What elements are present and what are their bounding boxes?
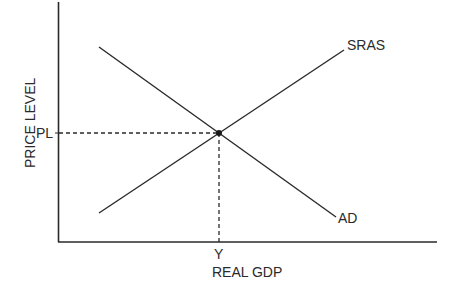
x-axis-label: REAL GDP: [212, 264, 282, 280]
y-axis-label: PRICE LEVEL: [22, 78, 38, 168]
ad-label: AD: [338, 210, 357, 226]
y-label: Y: [214, 246, 224, 262]
pl-label: PL: [36, 125, 53, 141]
sras-label: SRAS: [347, 37, 385, 53]
equilibrium-point: [216, 130, 222, 136]
ad-as-diagram: SRAS AD PL Y REAL GDP PRICE LEVEL: [0, 0, 462, 294]
